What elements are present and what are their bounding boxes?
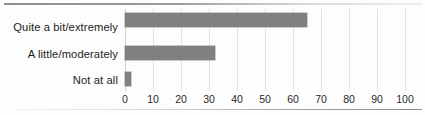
bar-chart-figure: Quite a bit/extremely A little/moderatel… xyxy=(0,0,425,115)
xtick-label-80: 80 xyxy=(343,93,355,105)
xtick-label-100: 100 xyxy=(396,93,414,105)
bar-a-little-moderately xyxy=(125,46,215,60)
xtick-label-60: 60 xyxy=(287,93,299,105)
xtick-label-0: 0 xyxy=(122,93,128,105)
gridline-100 xyxy=(405,9,406,91)
xtick-label-40: 40 xyxy=(231,93,243,105)
xtick-label-20: 20 xyxy=(175,93,187,105)
gridline-70 xyxy=(321,9,322,91)
xtick-label-50: 50 xyxy=(259,93,271,105)
category-label-not-at-all: Not at all xyxy=(0,74,118,86)
bottom-rule-divider xyxy=(14,109,422,110)
category-label-quite-a-bit-extremely: Quite a bit/extremely xyxy=(0,21,118,33)
plot-area xyxy=(125,9,405,91)
xtick-label-70: 70 xyxy=(315,93,327,105)
xtick-label-10: 10 xyxy=(147,93,159,105)
bar-quite-a-bit-extremely xyxy=(125,13,307,27)
xtick-label-30: 30 xyxy=(203,93,215,105)
gridline-90 xyxy=(377,9,378,91)
bar-not-at-all xyxy=(125,72,131,86)
category-label-a-little-moderately: A little/moderately xyxy=(0,48,118,60)
xtick-label-90: 90 xyxy=(371,93,383,105)
category-axis-labels: Quite a bit/extremely A little/moderatel… xyxy=(0,9,118,91)
gridline-80 xyxy=(349,9,350,91)
top-rule-divider xyxy=(4,3,422,5)
